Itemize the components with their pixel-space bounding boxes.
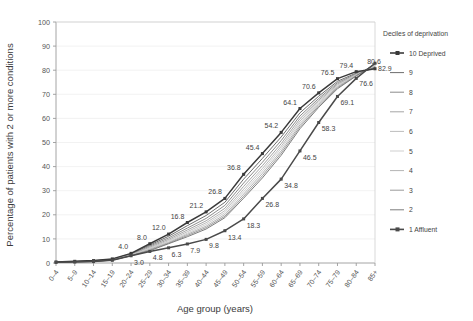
data-label-top-9: 26.8 bbox=[208, 188, 222, 195]
y-tick-label-60: 60 bbox=[42, 114, 50, 123]
data-label-bottom-17: 82.9 bbox=[378, 65, 392, 72]
series-marker-10-deprived-13 bbox=[298, 107, 301, 110]
y-tick-label-100: 100 bbox=[38, 18, 50, 27]
y-tick-label-20: 20 bbox=[42, 210, 50, 219]
series-marker-10-deprived-16 bbox=[355, 70, 358, 73]
y-tick-label-0: 0 bbox=[46, 259, 50, 268]
chart-figure: 0102030405060708090100 0–45–910–1415–192… bbox=[0, 0, 473, 321]
legend-item-label-9: 1 Affluent bbox=[409, 226, 437, 233]
series-marker-10-deprived-14 bbox=[317, 91, 320, 94]
multimorbidity-by-deprivation-line-chart: 0102030405060708090100 0–45–910–1415–192… bbox=[0, 0, 473, 321]
data-label-top-17: 80.6 bbox=[367, 58, 381, 65]
series-marker-1-affluent-4 bbox=[130, 254, 133, 257]
data-label-bottom-9: 13.4 bbox=[228, 234, 242, 241]
data-label-bottom-7: 7.9 bbox=[190, 247, 200, 254]
data-label-bottom-14: 58.3 bbox=[322, 125, 336, 132]
series-marker-10-deprived-5 bbox=[148, 242, 151, 245]
data-label-top-5: 8.0 bbox=[137, 234, 147, 241]
data-label-bottom-6: 6.3 bbox=[172, 251, 182, 258]
legend-item-label-2: 8 bbox=[409, 89, 413, 96]
legend-title: Deciles of deprivation bbox=[383, 30, 448, 38]
y-tick-label-70: 70 bbox=[42, 90, 50, 99]
series-marker-10-deprived-10 bbox=[242, 173, 245, 176]
series-marker-1-affluent-10 bbox=[242, 217, 245, 220]
series-marker-10-deprived-8 bbox=[205, 210, 208, 213]
legend-item-label-4: 6 bbox=[409, 128, 413, 135]
data-label-top-10: 36.8 bbox=[227, 164, 241, 171]
series-marker-1-affluent-12 bbox=[280, 178, 283, 181]
legend-item-label-0: 10 Deprived bbox=[409, 50, 446, 58]
data-label-bottom-15: 69.1 bbox=[340, 99, 354, 106]
series-marker-10-deprived-11 bbox=[261, 152, 264, 155]
data-label-top-4: 4.0 bbox=[118, 243, 128, 250]
data-label-bottom-10: 18.3 bbox=[247, 222, 261, 229]
series-marker-1-affluent-8 bbox=[205, 238, 208, 241]
y-tick-label-40: 40 bbox=[42, 162, 50, 171]
x-axis-title: Age group (years) bbox=[177, 303, 253, 314]
series-marker-1-affluent-5 bbox=[148, 250, 151, 253]
data-label-bottom-16: 76.6 bbox=[359, 80, 373, 87]
legend-item-label-3: 7 bbox=[409, 108, 413, 115]
data-label-top-14: 70.6 bbox=[302, 83, 316, 90]
data-label-bottom-13: 46.5 bbox=[303, 154, 317, 161]
series-marker-1-affluent-6 bbox=[167, 246, 170, 249]
data-label-top-12: 54.2 bbox=[265, 122, 279, 129]
data-label-top-16: 79.4 bbox=[340, 62, 354, 69]
series-marker-1-affluent-9 bbox=[223, 229, 226, 232]
series-marker-10-deprived-9 bbox=[223, 197, 226, 200]
legend-item-label-7: 3 bbox=[409, 187, 413, 194]
data-label-bottom-4: 3.0 bbox=[134, 259, 144, 266]
legend-item-label-8: 2 bbox=[409, 206, 413, 213]
series-marker-1-affluent-0 bbox=[55, 261, 58, 264]
series-marker-1-affluent-15 bbox=[336, 95, 339, 98]
data-label-top-13: 64.1 bbox=[283, 99, 297, 106]
legend-item-label-6: 4 bbox=[409, 167, 413, 174]
series-marker-1-affluent-3 bbox=[111, 259, 114, 262]
legend-item-label-5: 5 bbox=[409, 148, 413, 155]
y-tick-label-50: 50 bbox=[42, 138, 50, 147]
legend-item-label-1: 9 bbox=[409, 69, 413, 76]
data-label-top-11: 45.4 bbox=[246, 144, 260, 151]
data-label-bottom-12: 34.8 bbox=[284, 182, 298, 189]
series-marker-1-affluent-16 bbox=[355, 77, 358, 80]
legend-marker-0 bbox=[396, 51, 400, 55]
data-label-top-6: 12.0 bbox=[152, 224, 166, 231]
data-label-bottom-8: 9.8 bbox=[209, 242, 219, 249]
y-axis-title: Percentage of patients with 2 or more co… bbox=[4, 43, 15, 247]
data-label-top-7: 16.8 bbox=[171, 213, 185, 220]
y-tick-label-90: 90 bbox=[42, 42, 50, 51]
data-label-top-8: 21.2 bbox=[189, 202, 203, 209]
series-marker-10-deprived-12 bbox=[280, 131, 283, 134]
series-marker-1-affluent-13 bbox=[298, 149, 301, 152]
series-marker-1-affluent-11 bbox=[261, 197, 264, 200]
series-marker-10-deprived-17 bbox=[374, 67, 377, 70]
y-tick-label-30: 30 bbox=[42, 186, 50, 195]
series-marker-10-deprived-6 bbox=[167, 233, 170, 236]
data-label-bottom-5: 4.8 bbox=[153, 254, 163, 261]
series-marker-1-affluent-1 bbox=[73, 261, 76, 264]
legend-marker-9 bbox=[396, 227, 400, 231]
data-label-bottom-11: 26.8 bbox=[265, 201, 279, 208]
y-tick-label-10: 10 bbox=[42, 235, 50, 244]
data-label-top-15: 76.5 bbox=[321, 69, 335, 76]
series-marker-10-deprived-15 bbox=[336, 77, 339, 80]
series-marker-1-affluent-14 bbox=[317, 121, 320, 124]
y-tick-label-80: 80 bbox=[42, 66, 50, 75]
series-marker-10-deprived-7 bbox=[186, 221, 189, 224]
series-marker-1-affluent-7 bbox=[186, 242, 189, 245]
series-marker-1-affluent-2 bbox=[92, 260, 95, 263]
